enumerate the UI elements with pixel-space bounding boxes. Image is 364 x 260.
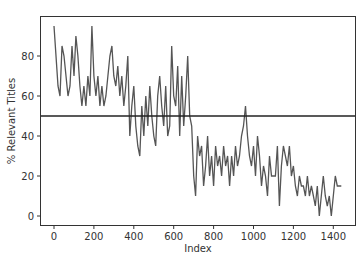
y-axis-ticks: 020406080 — [21, 51, 41, 222]
x-tick-label: 1200 — [281, 231, 306, 242]
x-tick-label: 200 — [84, 231, 103, 242]
y-axis-label: % Relevant Titles — [6, 78, 17, 164]
x-tick-label: 1400 — [321, 231, 346, 242]
y-tick-label: 60 — [21, 91, 34, 102]
y-tick-label: 0 — [28, 211, 34, 222]
plot-frame — [41, 17, 356, 226]
x-axis-ticks: 0200400600800100012001400 — [51, 225, 346, 242]
x-tick-label: 800 — [204, 231, 223, 242]
line-chart: 020406080 0200400600800100012001400 Inde… — [0, 0, 364, 260]
y-tick-label: 40 — [21, 131, 34, 142]
x-tick-label: 0 — [51, 231, 57, 242]
y-tick-label: 20 — [21, 171, 34, 182]
x-tick-label: 400 — [124, 231, 143, 242]
y-tick-label: 80 — [21, 51, 34, 62]
x-axis-label: Index — [184, 243, 212, 254]
x-tick-label: 1000 — [241, 231, 266, 242]
x-tick-label: 600 — [164, 231, 183, 242]
